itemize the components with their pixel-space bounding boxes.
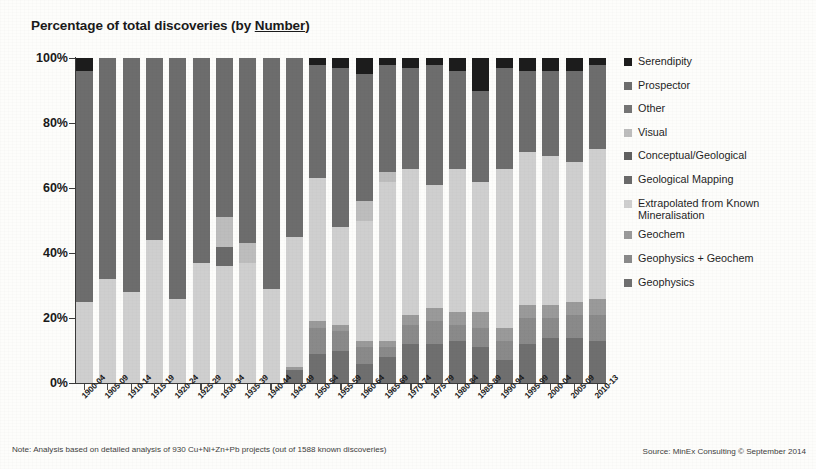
bar-column[interactable] bbox=[263, 58, 280, 383]
bar-segment bbox=[519, 71, 536, 152]
bar-segment bbox=[472, 182, 489, 312]
bar-segment bbox=[239, 243, 256, 263]
bar-segment bbox=[216, 266, 233, 383]
bar-segment bbox=[332, 68, 349, 227]
bar-segment bbox=[426, 321, 443, 344]
bar-segment bbox=[449, 71, 466, 169]
bar-segment bbox=[379, 65, 396, 172]
bar-segment bbox=[76, 58, 93, 71]
bar-segment bbox=[123, 292, 140, 383]
bar-segment bbox=[146, 58, 163, 240]
bar-column[interactable] bbox=[99, 58, 116, 383]
bar-segment bbox=[193, 263, 210, 383]
bar-segment bbox=[356, 347, 373, 363]
bar-segment bbox=[309, 65, 326, 179]
bar-column[interactable] bbox=[496, 58, 513, 383]
bar-column[interactable] bbox=[542, 58, 559, 383]
bar-segment bbox=[332, 227, 349, 325]
legend-item[interactable]: Conceptual/Geological bbox=[624, 149, 810, 161]
bar-segment bbox=[589, 299, 606, 315]
bar-column[interactable] bbox=[356, 58, 373, 383]
bar-segment bbox=[76, 302, 93, 383]
bar-column[interactable] bbox=[146, 58, 163, 383]
legend-item[interactable]: Geological Mapping bbox=[624, 173, 810, 185]
bar-segment bbox=[402, 169, 419, 315]
bar-segment bbox=[566, 302, 583, 315]
bar-segment bbox=[402, 68, 419, 169]
bar-column[interactable] bbox=[123, 58, 140, 383]
legend-swatch-icon bbox=[624, 58, 632, 66]
legend-item[interactable]: Geochem bbox=[624, 228, 810, 240]
bar-segment bbox=[332, 331, 349, 351]
legend-item[interactable]: Geophysics + Geochem bbox=[624, 252, 810, 264]
bar-segment bbox=[566, 162, 583, 302]
bar-segment bbox=[496, 68, 513, 169]
bar-segment bbox=[472, 328, 489, 348]
y-axis-tick-label: 100% bbox=[22, 51, 68, 65]
bar-segment bbox=[426, 185, 443, 309]
y-axis-tick-label: 0% bbox=[22, 376, 68, 390]
legend-swatch-icon bbox=[624, 176, 632, 184]
legend-item[interactable]: Other bbox=[624, 102, 810, 114]
legend-item[interactable]: Extrapolated from Known Mineralisation bbox=[624, 197, 810, 222]
bar-segment bbox=[379, 172, 396, 182]
legend-swatch-icon bbox=[624, 231, 632, 239]
bar-column[interactable] bbox=[566, 58, 583, 383]
legend-swatch-icon bbox=[624, 152, 632, 160]
bar-column[interactable] bbox=[286, 58, 303, 383]
bar-column[interactable] bbox=[332, 58, 349, 383]
bar-segment bbox=[496, 58, 513, 68]
bar-column[interactable] bbox=[216, 58, 233, 383]
bar-segment bbox=[472, 58, 489, 91]
bar-segment bbox=[99, 58, 116, 279]
bar-segment bbox=[169, 58, 186, 299]
bar-segment bbox=[146, 240, 163, 383]
legend-swatch-icon bbox=[624, 105, 632, 113]
bar-segment bbox=[542, 156, 559, 306]
bar-column[interactable] bbox=[76, 58, 93, 383]
bar-column[interactable] bbox=[519, 58, 536, 383]
legend-item-label: Conceptual/Geological bbox=[638, 149, 747, 161]
bar-column[interactable] bbox=[169, 58, 186, 383]
bar-segment bbox=[239, 58, 256, 243]
bar-segment bbox=[566, 71, 583, 162]
y-axis-tick-label: 20% bbox=[22, 311, 68, 325]
bar-column[interactable] bbox=[193, 58, 210, 383]
bar-segment bbox=[263, 58, 280, 289]
legend-item-label: Extrapolated from Known Mineralisation bbox=[638, 197, 810, 222]
bar-segment bbox=[566, 315, 583, 338]
bar-segment bbox=[519, 58, 536, 71]
legend-swatch-icon bbox=[624, 200, 632, 208]
bar-segment bbox=[216, 58, 233, 217]
legend-item[interactable]: Visual bbox=[624, 126, 810, 138]
bar-segment bbox=[519, 305, 536, 318]
bar-segment bbox=[402, 315, 419, 325]
bar-column[interactable] bbox=[589, 58, 606, 383]
bar-segment bbox=[472, 312, 489, 328]
legend-item[interactable]: Geophysics bbox=[624, 276, 810, 288]
bar-column[interactable] bbox=[379, 58, 396, 383]
bar-column[interactable] bbox=[309, 58, 326, 383]
legend-swatch-icon bbox=[624, 279, 632, 287]
legend-item[interactable]: Prospector bbox=[624, 79, 810, 91]
bar-column[interactable] bbox=[449, 58, 466, 383]
bar-segment bbox=[379, 182, 396, 341]
bar-segment bbox=[426, 65, 443, 185]
chart-title-suffix: ) bbox=[305, 18, 309, 33]
bar-column[interactable] bbox=[426, 58, 443, 383]
bar-segment bbox=[402, 325, 419, 345]
legend-item-label: Geochem bbox=[638, 228, 685, 240]
bar-segment bbox=[216, 217, 233, 246]
bar-segment bbox=[589, 315, 606, 341]
legend-item[interactable]: Serendipity bbox=[624, 55, 810, 67]
footnote-note: Note: Analysis based on detailed analysi… bbox=[12, 445, 387, 454]
bar-column[interactable] bbox=[402, 58, 419, 383]
footnote-source: Source: MinEx Consulting © September 201… bbox=[643, 447, 806, 456]
legend-swatch-icon bbox=[624, 129, 632, 137]
bar-segment bbox=[169, 299, 186, 384]
bar-column[interactable] bbox=[472, 58, 489, 383]
bar-segment bbox=[496, 341, 513, 361]
bar-column[interactable] bbox=[239, 58, 256, 383]
chart-title-underlined-word: Number bbox=[255, 18, 305, 33]
bar-segment bbox=[472, 91, 489, 182]
